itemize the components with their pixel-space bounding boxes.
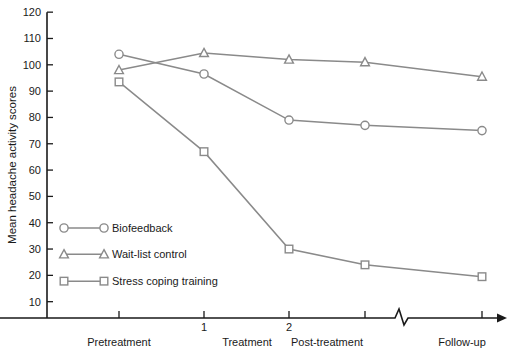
x-axis-phase-label: Post-treatment xyxy=(291,336,363,348)
headache-activity-line-chart: 102030405060708090100110120Mean headache… xyxy=(0,0,509,358)
data-point-square xyxy=(200,148,208,156)
x-axis-tick-label-1: 1 xyxy=(201,321,207,333)
data-point-square xyxy=(478,273,486,281)
y-axis-tick-label: 70 xyxy=(29,138,41,150)
data-point-square xyxy=(361,261,369,269)
y-axis-tick-label: 40 xyxy=(29,217,41,229)
legend-marker-circle xyxy=(100,224,108,232)
x-axis-tick-label-2: 2 xyxy=(286,321,292,333)
series-wait-list-control xyxy=(115,48,487,80)
legend-item-stress-coping-training[interactable] xyxy=(60,277,108,285)
y-axis-tick-label: 80 xyxy=(29,111,41,123)
legend-item-biofeedback[interactable] xyxy=(60,224,108,232)
legend-marker-circle xyxy=(60,224,68,232)
legend-label: Biofeedback xyxy=(112,222,173,234)
data-point-circle xyxy=(115,50,123,58)
y-axis-tick-label: 20 xyxy=(29,269,41,281)
y-axis-tick-label: 10 xyxy=(29,296,41,308)
series-line xyxy=(119,54,482,130)
legend-label: Stress coping training xyxy=(112,275,218,287)
data-point-square xyxy=(115,78,123,86)
y-axis-tick-label: 30 xyxy=(29,243,41,255)
data-point-circle xyxy=(200,70,208,78)
x-axis-phase-label: Pretreatment xyxy=(87,336,151,348)
data-point-circle xyxy=(285,116,293,124)
data-point-square xyxy=(285,245,293,253)
series-biofeedback xyxy=(115,50,486,135)
y-axis-tick-label: 50 xyxy=(29,190,41,202)
data-point-circle xyxy=(478,127,486,135)
x-axis-phase-label: Treatment xyxy=(222,336,272,348)
chart-container: 102030405060708090100110120Mean headache… xyxy=(0,0,509,358)
legend-marker-square xyxy=(60,277,68,285)
legend-label: Wait-list control xyxy=(112,248,187,260)
y-axis-tick-label: 90 xyxy=(29,85,41,97)
x-axis-arrow-icon xyxy=(497,314,507,323)
y-axis-title: Mean headache activity scores xyxy=(6,86,18,244)
x-axis-phase-label: Follow-up xyxy=(438,336,486,348)
y-axis-tick-label: 120 xyxy=(23,6,41,18)
y-axis-tick-label: 110 xyxy=(23,32,41,44)
legend-item-wait-list-control[interactable] xyxy=(60,250,109,258)
y-axis-tick-label: 60 xyxy=(29,164,41,176)
x-axis-line-with-break xyxy=(0,309,497,325)
data-point-circle xyxy=(361,121,369,129)
legend-marker-square xyxy=(100,277,108,285)
series-line xyxy=(119,53,482,77)
y-axis-tick-label: 100 xyxy=(23,59,41,71)
